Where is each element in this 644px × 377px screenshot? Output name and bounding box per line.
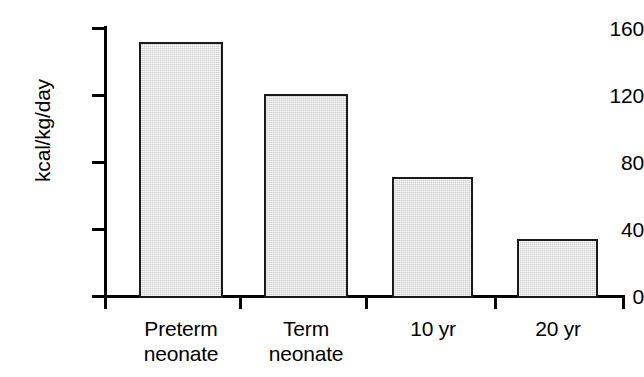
x-axis-tick-4 (622, 297, 625, 309)
y-axis-tick-label-80: 80 (558, 152, 644, 173)
x-axis-label-line-1: 20 yr (488, 316, 628, 341)
y-axis-tick-160 (92, 27, 105, 30)
bar-20-yr (517, 239, 598, 298)
x-axis-label-10-yr: 10 yr (363, 316, 503, 341)
y-axis-tick-label-160: 160 (558, 18, 644, 39)
x-axis-label-line-1: Term (236, 316, 376, 341)
x-axis-tick-3 (494, 297, 497, 309)
x-axis-tick-2 (365, 297, 368, 309)
x-axis-tick-0 (104, 297, 107, 309)
y-axis-title: kcal/kg/day (32, 51, 53, 211)
y-axis-tick-120 (92, 94, 105, 97)
y-axis-tick-80 (92, 161, 105, 164)
bar-chart-figure: kcal/kg/day 160 120 80 40 0 Preterm neon… (0, 0, 644, 377)
x-axis-label-line-2: neonate (111, 341, 251, 366)
bar-preterm-neonate (139, 42, 223, 299)
x-axis-label-line-1: Preterm (111, 316, 251, 341)
x-axis-label-line-2: neonate (236, 341, 376, 366)
bar-10-yr (392, 177, 473, 299)
x-axis-label-term-neonate: Term neonate (236, 316, 376, 366)
x-axis-label-preterm-neonate: Preterm neonate (111, 316, 251, 366)
x-axis-tick-1 (239, 297, 242, 309)
y-axis-tick-label-40: 40 (558, 219, 644, 240)
x-axis-label-20-yr: 20 yr (488, 316, 628, 341)
bar-term-neonate (264, 94, 348, 298)
x-axis-label-line-1: 10 yr (363, 316, 503, 341)
y-axis-tick-40 (92, 228, 105, 231)
y-axis-tick-label-120: 120 (558, 85, 644, 106)
